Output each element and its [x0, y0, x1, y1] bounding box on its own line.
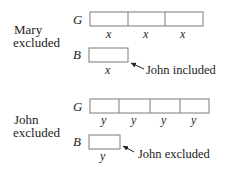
g-label: G [73, 12, 83, 27]
g-cell-label: y [190, 113, 197, 127]
section-title-line2: excluded [13, 35, 60, 50]
g-label: G [73, 99, 83, 114]
b-label: B [73, 134, 81, 149]
g-cell-label: y [130, 113, 137, 127]
g-cell-label: x [142, 27, 149, 41]
arrow-icon [131, 63, 144, 69]
b-box [89, 48, 128, 62]
diagram-canvas: Mary excluded G x x x B x John included … [0, 0, 228, 170]
b-cell-label: x [104, 63, 111, 77]
b-cell-label: y [99, 149, 106, 163]
b-label: B [73, 47, 81, 62]
g-cell-label: x [179, 27, 186, 41]
section-mary-excluded: Mary excluded G x x x B x John included [13, 12, 217, 77]
g-box [90, 12, 203, 26]
g-cell-label: y [160, 113, 167, 127]
diagram-svg: Mary excluded G x x x B x John included … [0, 0, 228, 170]
section-john-excluded: John excluded G y y y y B y John exclude… [13, 99, 211, 163]
section-title-line2: excluded [13, 125, 60, 140]
g-cell-label: x [105, 27, 112, 41]
b-box [89, 135, 120, 149]
annotation: John included [146, 63, 217, 77]
g-cell-label: y [100, 113, 107, 127]
annotation: John excluded [138, 147, 211, 161]
arrow-icon [123, 146, 134, 152]
g-box [90, 99, 209, 113]
